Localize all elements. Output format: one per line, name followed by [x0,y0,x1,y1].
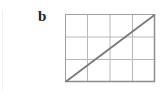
grid-plot [0,0,166,106]
